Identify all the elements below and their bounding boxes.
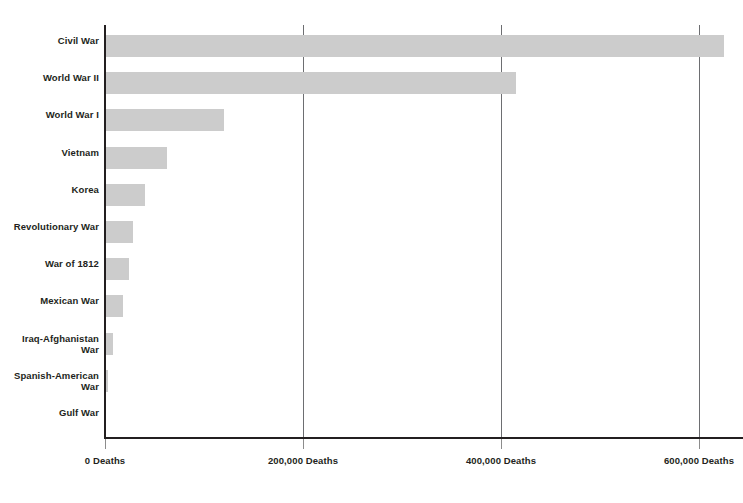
tick-label: 400,000 Deaths — [466, 455, 536, 466]
bar — [105, 72, 516, 94]
x-axis-ticks: 0 Deaths200,000 Deaths400,000 Deaths600,… — [0, 439, 743, 479]
bar — [105, 184, 145, 206]
tick-mark — [501, 439, 502, 449]
tick-mark — [105, 439, 106, 449]
tick-mark — [303, 439, 304, 449]
category-label: Civil War — [4, 35, 99, 46]
category-label: War of 1812 — [4, 258, 99, 269]
tick-label: 600,000 Deaths — [664, 455, 734, 466]
tick-mark — [699, 439, 700, 449]
bar — [105, 258, 129, 280]
category-label: Gulf War — [4, 407, 99, 418]
category-label: World War II — [4, 72, 99, 83]
category-axis-labels: Civil WarWorld War IIWorld War IVietnamK… — [0, 25, 99, 438]
category-label: Spanish-American War — [4, 370, 99, 392]
bar — [105, 221, 133, 243]
bar — [105, 109, 224, 131]
bar — [105, 35, 724, 57]
bar-chart: Civil WarWorld War IIWorld War IVietnamK… — [0, 0, 743, 503]
bar — [105, 147, 167, 169]
category-label: World War I — [4, 109, 99, 120]
bar — [105, 295, 123, 317]
category-label: Korea — [4, 184, 99, 195]
category-label: Iraq-Afghanistan War — [4, 333, 99, 355]
category-label: Mexican War — [4, 295, 99, 306]
category-label: Revolutionary War — [4, 221, 99, 232]
tick-label: 0 Deaths — [85, 455, 125, 466]
tick-label: 200,000 Deaths — [268, 455, 338, 466]
y-axis-line — [104, 25, 106, 439]
bar — [105, 333, 113, 355]
category-label: Vietnam — [4, 147, 99, 158]
plot-area — [105, 25, 743, 438]
gridline — [699, 25, 700, 438]
